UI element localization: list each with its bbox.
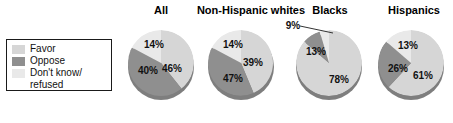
legend-item-dontknow: Don't know/ [12, 67, 111, 79]
slice-label-oppose: 13% [306, 46, 326, 57]
legend-label-dontknow-line2: refused [12, 79, 111, 91]
chart-canvas: Favor Oppose Don't know/ refused All Non… [0, 0, 453, 123]
slice-label-dontknow: 14% [223, 39, 243, 50]
pie-chart-blacks: 78% 13% [296, 30, 362, 96]
legend-label-dontknow: Don't know/ [30, 67, 82, 79]
legend-label-favor: Favor [30, 43, 56, 55]
legend-swatch-oppose [12, 57, 25, 66]
legend-swatch-favor [12, 45, 25, 54]
slice-label-dontknow-external: 9% [286, 20, 300, 31]
slice-label-oppose: 47% [223, 73, 243, 84]
legend-item-favor: Favor [12, 43, 111, 55]
pie-title-non-hispanic-whites: Non-Hispanic whites [191, 4, 311, 16]
pie-title-all: All [131, 4, 191, 16]
slice-label-oppose: 40% [138, 65, 158, 76]
pie-chart-hispanics: 61% 26% 13% [378, 30, 444, 96]
legend-label-oppose: Oppose [30, 55, 65, 67]
slice-label-favor: 78% [329, 74, 349, 85]
slice-label-favor: 46% [162, 63, 182, 74]
pie-chart-all: 46% 40% 14% [128, 30, 194, 96]
legend: Favor Oppose Don't know/ refused [6, 39, 112, 91]
pie-disc-blacks [296, 30, 362, 96]
pie-title-hispanics: Hispanics [378, 4, 450, 16]
slice-label-dontknow: 14% [144, 39, 164, 50]
slice-label-favor: 39% [243, 57, 263, 68]
pie-chart-non-hispanic-whites: 39% 47% 14% [208, 30, 274, 96]
slice-label-favor: 61% [413, 70, 433, 81]
legend-swatch-dontknow [12, 69, 25, 78]
pie-title-blacks: Blacks [300, 4, 360, 16]
legend-item-oppose: Oppose [12, 55, 111, 67]
slice-label-oppose: 26% [388, 63, 408, 74]
pie-slices-blacks [296, 30, 362, 96]
slice-label-dontknow: 13% [398, 40, 418, 51]
